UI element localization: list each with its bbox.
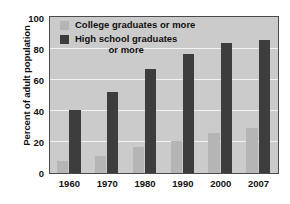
x-tick-label: 2000 xyxy=(210,178,231,189)
bar-2000-highschool xyxy=(221,43,232,173)
bar-chart: Percent of adult population 020406080100… xyxy=(0,0,290,204)
bar-2007-highschool xyxy=(259,40,270,173)
bar-1970-college xyxy=(95,156,106,173)
legend-label-college: College graduates or more xyxy=(75,19,195,31)
y-tick-label: 40 xyxy=(0,105,44,116)
bar-1970-highschool xyxy=(107,92,118,173)
x-tick-label: 1960 xyxy=(59,178,80,189)
y-tick-label: 20 xyxy=(0,136,44,147)
legend-label-highschool: High school graduates or more xyxy=(75,33,177,56)
bar-1960-highschool xyxy=(69,110,80,174)
chart-legend: College graduates or more High school gr… xyxy=(60,19,270,58)
bar-1960-college xyxy=(57,161,68,173)
bar-1980-highschool xyxy=(145,69,156,173)
x-tick-label: 1980 xyxy=(135,178,156,189)
y-tick-label: 60 xyxy=(0,74,44,85)
x-tick-label: 1970 xyxy=(97,178,118,189)
legend-swatch-highschool-icon xyxy=(60,35,69,44)
legend-label-highschool-line2: or more xyxy=(75,44,177,56)
legend-swatch-college-icon xyxy=(60,21,69,30)
y-tick-label: 0 xyxy=(0,167,44,178)
bar-1990-highschool xyxy=(183,54,194,173)
bar-1990-college xyxy=(171,141,182,174)
bar-2000-college xyxy=(208,133,219,173)
y-tick-label: 80 xyxy=(0,43,44,54)
bar-2007-college xyxy=(246,128,257,173)
bar-1980-college xyxy=(133,147,144,173)
y-tick-label: 100 xyxy=(0,12,44,23)
x-tick-label: 2007 xyxy=(248,178,269,189)
legend-item-college: College graduates or more xyxy=(60,19,270,31)
legend-item-highschool: High school graduates or more xyxy=(60,33,270,56)
x-tick-label: 1990 xyxy=(172,178,193,189)
legend-label-highschool-line1: High school graduates xyxy=(75,33,177,44)
